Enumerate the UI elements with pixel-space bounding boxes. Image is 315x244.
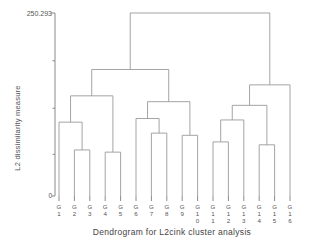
leaf-label-G8: G8: [164, 203, 169, 217]
leaf-label-part: G: [118, 203, 123, 210]
leaf-label-part: 1: [273, 210, 277, 217]
leaf-label-part: G: [87, 203, 92, 210]
dendrogram-plot-svg: G1G2G3G4G5G6G7G8G9G10G11G12G13G14G15G16 …: [0, 0, 315, 244]
leaf-label-part: G: [195, 203, 200, 210]
leaf-label-part: 1: [211, 210, 215, 217]
leaf-label-part: G: [180, 203, 185, 210]
leaf-label-part: G: [164, 203, 169, 210]
leaf-label-G14: G14: [257, 203, 262, 224]
leaf-labels: G1G2G3G4G5G6G7G8G9G10G11G12G13G14G15G16: [57, 203, 293, 224]
leaf-label-part: G: [257, 203, 262, 210]
y-axis: [51, 13, 55, 196]
leaf-label-part: 1: [57, 210, 61, 217]
leaf-label-part: 3: [88, 210, 92, 217]
leaf-label-part: 2: [73, 210, 77, 217]
leaf-label-part: G: [57, 203, 62, 210]
y-axis-top-label: 250.293: [27, 10, 52, 17]
leaf-label-G2: G2: [72, 203, 77, 217]
leaf-label-part: G: [226, 203, 231, 210]
leaf-label-part: G: [103, 203, 108, 210]
leaf-label-part: G: [134, 203, 139, 210]
leaf-label-part: G: [72, 203, 77, 210]
leaf-label-G12: G12: [226, 203, 231, 224]
leaf-label-part: 3: [242, 217, 246, 224]
leaf-label-G1: G1: [57, 203, 62, 217]
y-axis-zero-label: 0: [48, 192, 52, 199]
leaf-label-G7: G7: [149, 203, 154, 217]
leaf-label-G4: G4: [103, 203, 108, 217]
leaf-label-part: G: [272, 203, 277, 210]
leaf-label-part: 1: [257, 210, 261, 217]
leaf-label-part: 7: [150, 210, 154, 217]
leaf-label-part: 4: [103, 210, 107, 217]
leaf-label-part: 1: [288, 210, 292, 217]
leaf-label-part: 9: [180, 210, 184, 217]
leaf-label-part: 5: [119, 210, 123, 217]
leaf-label-part: 5: [273, 217, 277, 224]
leaf-label-G9: G9: [180, 203, 185, 217]
leaf-label-part: 6: [288, 217, 292, 224]
leaf-label-part: 1: [211, 217, 215, 224]
leaf-label-part: 2: [227, 217, 231, 224]
leaf-label-part: 6: [134, 210, 138, 217]
leaf-label-part: G: [211, 203, 216, 210]
leaf-label-G11: G11: [211, 203, 216, 224]
leaf-label-part: 4: [257, 217, 261, 224]
leaf-label-G3: G3: [87, 203, 92, 217]
leaf-label-G10: G10: [195, 203, 200, 224]
leaf-label-part: 8: [165, 210, 169, 217]
y-axis-title: L2 dissimilarity measure: [13, 85, 22, 170]
leaf-label-G15: G15: [272, 203, 277, 224]
leaf-label-G16: G16: [288, 203, 293, 224]
leaf-label-G13: G13: [241, 203, 246, 224]
leaf-label-G6: G6: [134, 203, 139, 217]
leaf-label-part: 0: [196, 217, 200, 224]
dendrogram-tree: [59, 13, 290, 196]
leaf-label-part: G: [149, 203, 154, 210]
leaf-label-part: G: [241, 203, 246, 210]
leaf-label-part: G: [288, 203, 293, 210]
leaf-label-part: 1: [196, 210, 200, 217]
leaf-tick-marks: [59, 196, 290, 201]
dendrogram-chart: G1G2G3G4G5G6G7G8G9G10G11G12G13G14G15G16 …: [0, 0, 315, 244]
leaf-label-part: 1: [242, 210, 246, 217]
leaf-label-G5: G5: [118, 203, 123, 217]
leaf-label-part: 1: [227, 210, 231, 217]
x-axis-title: Dendrogram for L2cink cluster analysis: [93, 227, 251, 237]
